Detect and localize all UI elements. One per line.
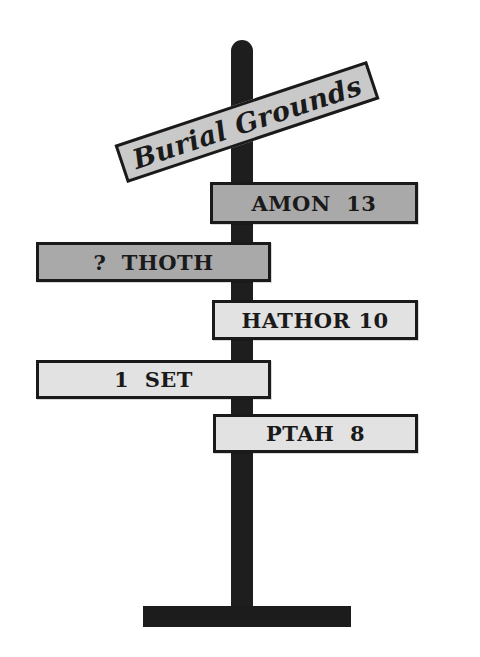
sign-thoth-label: ? THOTH [93,250,213,275]
signpost-base [143,606,351,627]
sign-set: 1 SET [36,360,271,399]
sign-set-label: 1 SET [114,367,193,392]
sign-thoth: ? THOTH [36,242,271,282]
sign-ptah: PTAH 8 [213,414,418,453]
signpost-puzzle: Burial Grounds AMON 13 ? THOTH HATHOR 10… [0,0,480,657]
sign-amon-label: AMON 13 [252,191,377,216]
sign-amon: AMON 13 [210,182,418,224]
sign-hathor-label: HATHOR 10 [241,308,388,333]
sign-ptah-label: PTAH 8 [266,421,365,446]
sign-hathor: HATHOR 10 [212,300,418,340]
